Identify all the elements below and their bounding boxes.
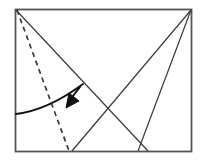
origami-fold-figure [0,0,207,161]
figure-canvas [0,0,207,161]
